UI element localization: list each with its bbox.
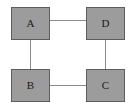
edge-a-b bbox=[30, 40, 31, 69]
node-d[interactable]: D bbox=[86, 7, 125, 40]
edge-b-c bbox=[50, 85, 86, 86]
diagram-canvas: A D B C bbox=[0, 0, 136, 111]
node-a-label: A bbox=[27, 18, 35, 29]
node-a[interactable]: A bbox=[11, 7, 50, 40]
edge-c-d bbox=[105, 40, 106, 69]
edge-a-d bbox=[50, 20, 86, 21]
node-d-label: D bbox=[102, 18, 110, 29]
node-b-label: B bbox=[27, 80, 34, 91]
node-c-label: C bbox=[102, 80, 109, 91]
node-b[interactable]: B bbox=[11, 69, 50, 102]
node-c[interactable]: C bbox=[86, 69, 125, 102]
